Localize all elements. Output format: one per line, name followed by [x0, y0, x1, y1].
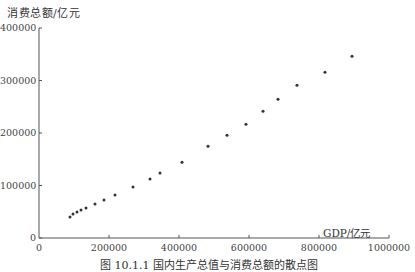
data-point: [85, 207, 88, 210]
x-tick-label: 200000: [79, 242, 139, 253]
data-point: [158, 172, 161, 175]
x-axis-title: GDP/亿元: [323, 225, 370, 240]
y-tick-label: 300000: [0, 75, 36, 86]
data-point: [244, 123, 247, 126]
x-tick-label: 0: [9, 242, 69, 253]
data-point: [132, 186, 135, 189]
data-point: [76, 211, 79, 214]
data-point: [113, 194, 116, 197]
data-point: [148, 178, 151, 181]
data-point: [295, 84, 298, 87]
data-point: [80, 209, 83, 212]
x-tick-label: 800000: [289, 242, 349, 253]
data-point: [207, 145, 210, 148]
data-point: [94, 203, 97, 206]
data-point: [181, 161, 184, 164]
data-point: [225, 134, 228, 137]
data-point: [102, 199, 105, 202]
y-tick-label: 100000: [0, 180, 36, 191]
data-point: [277, 98, 280, 101]
data-point: [351, 55, 354, 58]
figure-caption: 图 10.1.1 国内生产总值与消费总额的散点图: [100, 256, 318, 272]
x-tick-label: 1000000: [359, 242, 415, 253]
data-point: [323, 71, 326, 74]
y-tick-label: 400000: [0, 22, 36, 33]
x-tick-label: 400000: [149, 242, 209, 253]
x-tick-label: 600000: [219, 242, 279, 253]
data-point: [262, 110, 265, 113]
data-point: [69, 216, 72, 219]
y-tick-label: 200000: [0, 127, 36, 138]
data-point: [71, 213, 74, 216]
